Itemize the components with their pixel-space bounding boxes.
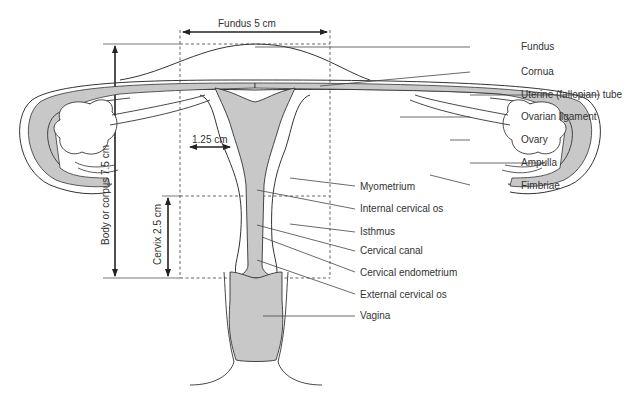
label-external-cervical-os: External cervical os [360, 289, 447, 301]
label-uterine-tube: Uterine (fallopian) tube [521, 89, 622, 101]
label-ovary: Ovary [521, 134, 548, 146]
label-fundus: Fundus [521, 41, 554, 53]
label-vagina: Vagina [360, 310, 390, 322]
label-fimbriae: Fimbriae [521, 180, 560, 192]
label-ovarian-ligament: Ovarian ligament [521, 111, 597, 123]
wall-thickness-label: 1.25 cm [192, 134, 228, 146]
body-length-label: Body or corpus 7.5 cm [100, 145, 112, 245]
uterine-cavity [215, 88, 295, 278]
label-myometrium: Myometrium [360, 181, 415, 193]
dimension-arrows [115, 32, 327, 276]
uterus-diagram [0, 0, 625, 405]
label-cornua: Cornua [521, 66, 554, 78]
label-cervical-canal: Cervical canal [360, 245, 423, 257]
fundus-width-label: Fundus 5 cm [218, 18, 276, 30]
label-internal-cervical-os: Internal cervical os [360, 203, 443, 215]
cervix-length-label: Cervix 2.5 cm [152, 204, 164, 265]
label-cervical-endometrium: Cervical endometrium [360, 267, 457, 279]
label-ampulla: Ampulla [521, 157, 557, 169]
vagina-shape [229, 272, 283, 362]
label-isthmus: Isthmus [360, 226, 395, 238]
